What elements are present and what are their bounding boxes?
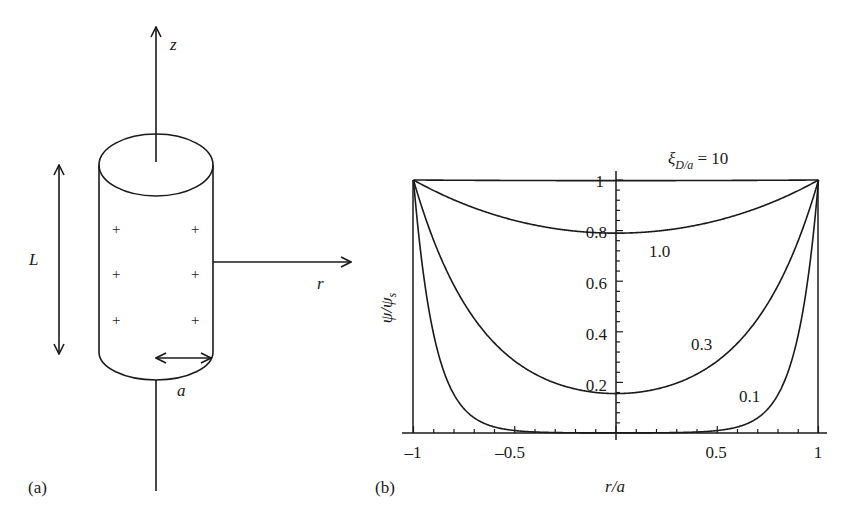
charge-plus-icon: + [112, 221, 120, 237]
panel-a-label: (a) [28, 478, 47, 497]
curve-label-xi-0.1: 0.1 [739, 387, 760, 406]
y-tick-label: 1 [596, 172, 605, 191]
charge-plus-icon: + [112, 312, 120, 328]
curve-label-xi-10: ξD/a = 10 [668, 149, 728, 172]
r-axis-label: r [317, 274, 324, 293]
charge-plus-icon: + [191, 266, 199, 282]
y-tick-label: 0.6 [586, 274, 607, 293]
y-tick-label: 0.2 [586, 376, 607, 395]
curve-label-xi-1.0: 1.0 [649, 242, 670, 261]
charge-plus-icon: + [112, 266, 120, 282]
y-tick-label: 0.8 [586, 223, 607, 242]
x-axis-label: r/a [605, 477, 625, 496]
surface-charges: + + + + + + [112, 221, 199, 328]
xi-value: = 10 [693, 149, 728, 168]
xi-subscript: D/a [674, 158, 693, 172]
figure: z r L a + + + + + + (a) [0, 0, 856, 526]
z-axis-label: z [169, 35, 177, 54]
curve-label-xi-0.3: 0.3 [691, 335, 712, 354]
cylinder-bottom [99, 352, 213, 380]
charge-plus-icon: + [191, 312, 199, 328]
x-tick-label: –1 [404, 443, 422, 462]
x-tick-label: 0.5 [705, 443, 726, 462]
radius-a-label: a [177, 381, 186, 400]
x-tick-label: 1 [814, 443, 823, 462]
panel-b-label: (b) [375, 478, 395, 497]
y-tick-label: 0.4 [586, 325, 608, 344]
x-tick-label: –0.5 [494, 443, 525, 462]
panel-a-cylinder-diagram: z r L a + + + + + + (a) [28, 27, 351, 497]
charge-plus-icon: + [191, 221, 199, 237]
panel-b-potential-plot: 1 0.8 0.6 0.4 0.2 –1 –0.5 0.5 1 1.0 0.3 … [375, 149, 827, 497]
curve-xi-10 [414, 180, 819, 181]
y-axis-label: ψ/ψs [377, 292, 399, 323]
length-L-label: L [28, 250, 38, 269]
